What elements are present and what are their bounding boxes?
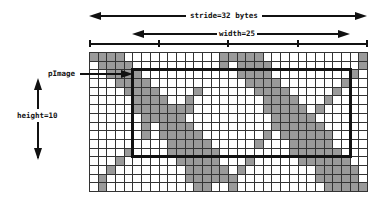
pixel-cell [307, 131, 316, 140]
pixel-cell [107, 149, 116, 158]
pixel-cell [194, 140, 203, 149]
pixel-cell [90, 149, 99, 158]
pixel-cell [125, 53, 134, 62]
pixel-cell [168, 183, 177, 192]
pixel-cell [342, 166, 351, 175]
pixel-cell [168, 88, 177, 97]
pixel-cell [107, 96, 116, 105]
pixel-cell [133, 114, 142, 123]
pixel-cell [264, 88, 273, 97]
pixel-cell [133, 175, 142, 184]
pixel-cell [99, 166, 108, 175]
pixel-cell [203, 123, 212, 132]
arrow-down-head-icon [34, 148, 42, 160]
pixel-cell [351, 140, 360, 149]
pixel-cell [107, 140, 116, 149]
pixel-cell [168, 70, 177, 79]
pixel-cell [142, 96, 151, 105]
pixel-cell [99, 183, 108, 192]
pixel-cell [133, 149, 142, 158]
pixel-cell [116, 105, 125, 114]
pixel-cell [90, 183, 99, 192]
pixel-cell [107, 166, 116, 175]
pixel-cell [272, 175, 281, 184]
pixel-cell [351, 131, 360, 140]
pixel-cell [316, 175, 325, 184]
pixel-cell [307, 70, 316, 79]
pixel-cell [177, 140, 186, 149]
pixel-cell [99, 140, 108, 149]
pixel-cell [151, 157, 160, 166]
pixel-cell [333, 79, 342, 88]
pixel-cell [99, 88, 108, 97]
pixel-cell [325, 166, 334, 175]
pixel-cell [333, 96, 342, 105]
pixel-cell [255, 175, 264, 184]
pixel-cell [194, 175, 203, 184]
pixel-cell [160, 96, 169, 105]
pixel-cell [238, 62, 247, 71]
pixel-cell [160, 62, 169, 71]
pixel-cell [246, 149, 255, 158]
pixel-cell [168, 53, 177, 62]
pixel-cell [281, 166, 290, 175]
pixel-cell [186, 70, 195, 79]
pixel-cell [333, 53, 342, 62]
pixel-cell [160, 79, 169, 88]
pixel-cell [281, 175, 290, 184]
pixel-cell [272, 105, 281, 114]
pixel-cell [168, 79, 177, 88]
pixel-cell [325, 114, 334, 123]
pixel-cell [238, 96, 247, 105]
pixel-cell [281, 149, 290, 158]
pixel-cell [299, 70, 308, 79]
pixel-cell [220, 123, 229, 132]
pixel-cell [116, 149, 125, 158]
pixel-cell [307, 149, 316, 158]
pixel-cell [255, 140, 264, 149]
pixel-cell [142, 183, 151, 192]
stride-label: stride=32 bytes [186, 11, 262, 20]
pixel-cell [272, 96, 281, 105]
pixel-cell [151, 123, 160, 132]
pixel-cell [125, 79, 134, 88]
pixel-cell [107, 88, 116, 97]
pixel-cell [194, 157, 203, 166]
pixel-cell [316, 166, 325, 175]
pixel-cell [264, 62, 273, 71]
pixel-cell [229, 123, 238, 132]
pixel-cell [133, 79, 142, 88]
pixel-cell [316, 70, 325, 79]
height-label: height=10 [16, 109, 59, 122]
pixel-cell [290, 166, 299, 175]
pixel-cell [255, 149, 264, 158]
pixel-cell [160, 70, 169, 79]
pixel-cell [299, 131, 308, 140]
pixel-cell [333, 105, 342, 114]
pixel-cell [116, 175, 125, 184]
pixel-cell [142, 175, 151, 184]
pixel-cell [151, 166, 160, 175]
pixel-cell [246, 175, 255, 184]
pixel-cell [99, 131, 108, 140]
pixel-cell [272, 149, 281, 158]
pixel-cell [299, 105, 308, 114]
pixel-cell [229, 149, 238, 158]
pixel-cell [212, 70, 221, 79]
pixel-cell [186, 53, 195, 62]
pixel-cell [212, 123, 221, 132]
pixel-cell [246, 114, 255, 123]
pixel-cell [90, 53, 99, 62]
pixel-cell [220, 131, 229, 140]
pixel-cell [351, 166, 360, 175]
pixel-cell [151, 70, 160, 79]
pixel-cell [212, 79, 221, 88]
pixel-cell [186, 157, 195, 166]
pixel-cell [359, 166, 368, 175]
pixel-cell [281, 114, 290, 123]
pixel-cell [125, 88, 134, 97]
pixel-cell [333, 149, 342, 158]
pixel-cell [220, 53, 229, 62]
pixel-cell [316, 123, 325, 132]
pixel-cell [307, 166, 316, 175]
